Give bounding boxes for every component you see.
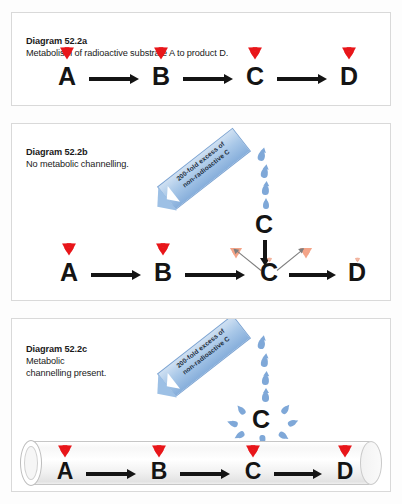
arrow-shaft xyxy=(86,472,128,476)
bulk-c-label-c: C xyxy=(252,407,270,432)
node-a-A: A xyxy=(50,43,84,89)
node-b-B: B xyxy=(146,239,180,285)
trefoil-glyph xyxy=(55,441,75,459)
cylinder-cap-right xyxy=(360,441,382,485)
caption-text-b: No metabolic channelling. xyxy=(26,159,129,169)
radioactive-trefoil-icon xyxy=(335,441,355,463)
radioactive-trefoil-icon xyxy=(153,239,173,261)
droplet-icon xyxy=(260,167,269,178)
bulk-c-label-b: C xyxy=(255,212,273,237)
banner-line-2: non-radioactive C xyxy=(167,137,245,200)
trefoil-glyph xyxy=(243,441,263,459)
node-c-C: C xyxy=(236,441,270,483)
trefoil-glyph xyxy=(339,43,359,61)
trefoil-glyph xyxy=(149,441,169,459)
droplet-icon xyxy=(278,430,288,439)
arrow-shaft xyxy=(89,77,131,81)
droplet-icon xyxy=(257,150,266,161)
figure-canvas: Diagram 52.2a Metabolism of radioactive … xyxy=(0,0,402,504)
droplet-icon xyxy=(229,420,238,428)
caption-text-c: Metabolic channelling present. xyxy=(26,356,106,378)
radioactive-trefoil-icon xyxy=(151,43,171,65)
arrow-shaft xyxy=(180,472,222,476)
cylinder-opening-inner xyxy=(24,446,38,480)
radioactive-trefoil-icon-tiny xyxy=(265,250,274,268)
trefoil-glyph xyxy=(59,239,79,257)
caption-panel-c: Diagram 52.2c Metabolic channelling pres… xyxy=(26,331,176,379)
arrow-head xyxy=(236,270,245,280)
droplet-icon xyxy=(262,375,270,385)
node-label: C xyxy=(236,460,270,483)
panel-diagram-52-2b: Diagram 52.2b No metabolic channelling. … xyxy=(11,123,391,301)
arrow-shaft xyxy=(274,472,314,476)
arrow-head xyxy=(318,74,327,84)
panel-diagram-52-2a: Diagram 52.2a Metabolism of radioactive … xyxy=(11,12,391,106)
banner-body: 200-fold excess of non-radioactive C xyxy=(157,128,251,211)
banner-line-1: 200-fold excess of xyxy=(162,130,240,193)
node-label: B xyxy=(144,64,178,89)
banner-line-2: non-radioactive C xyxy=(167,324,245,387)
arrow-c-d xyxy=(289,271,336,278)
radioactive-trefoil-icon xyxy=(59,239,79,261)
droplet-icon xyxy=(287,419,297,427)
arrow-b-c xyxy=(180,470,230,477)
trefoil-glyph xyxy=(57,43,77,61)
caption-label-c: Diagram 52.2c xyxy=(26,344,87,354)
node-c-D: D xyxy=(328,441,362,483)
arrow-head xyxy=(327,270,336,280)
droplet-icon xyxy=(280,405,289,415)
node-c-B: B xyxy=(142,441,176,483)
droplet-icon xyxy=(237,406,246,416)
radioactive-trefoil-icon xyxy=(243,441,263,463)
arrow-head xyxy=(221,469,230,479)
arrow-b-c xyxy=(185,271,245,278)
trefoil-glyph xyxy=(335,441,355,459)
arrow-shaft xyxy=(91,273,133,277)
droplet-icon xyxy=(262,392,269,402)
arrow-a-b xyxy=(86,470,136,477)
droplet-icon xyxy=(257,338,266,349)
arrow-shaft xyxy=(183,77,225,81)
radioactive-trefoil-icon xyxy=(55,441,75,463)
node-a-C: C xyxy=(238,43,272,89)
trefoil-glyph xyxy=(245,43,265,61)
arrow-shaft xyxy=(185,273,237,277)
arrow-c-d xyxy=(274,470,322,477)
node-b-D: D xyxy=(340,250,374,285)
caption-label-b: Diagram 52.2b xyxy=(26,147,88,157)
droplet-icon xyxy=(260,357,268,368)
droplet-icon xyxy=(236,431,246,440)
node-b-A: A xyxy=(52,239,86,285)
node-label: A xyxy=(48,460,82,483)
node-label: D xyxy=(332,64,366,89)
trefoil-glyph xyxy=(151,43,171,61)
droplet-icon xyxy=(262,185,270,195)
node-b-C: C xyxy=(252,250,286,285)
trefoil-glyph-tiny xyxy=(353,255,362,264)
banner-text: 200-fold excess of non-radioactive C xyxy=(162,130,245,200)
arrow-head xyxy=(224,74,233,84)
arrow-head xyxy=(132,270,141,280)
panel-diagram-52-2c: Diagram 52.2c Metabolic channelling pres… xyxy=(11,318,391,492)
radioactive-trefoil-icon xyxy=(149,441,169,463)
node-label: D xyxy=(328,460,362,483)
arrow-head xyxy=(313,469,322,479)
arrow-head xyxy=(127,469,136,479)
banner-excess-c-b: 200-fold excess of non-radioactive C xyxy=(157,128,251,211)
node-label: C xyxy=(238,64,272,89)
trefoil-glyph-tiny xyxy=(265,255,274,264)
arrow-shaft xyxy=(289,273,328,277)
radioactive-trefoil-icon xyxy=(245,43,265,65)
radioactive-trefoil-icon xyxy=(339,43,359,65)
node-label: A xyxy=(52,260,86,285)
node-a-D: D xyxy=(332,43,366,89)
node-label: A xyxy=(50,64,84,89)
arrow-shaft xyxy=(277,77,319,81)
node-label: B xyxy=(146,260,180,285)
arrow-a-b xyxy=(89,75,139,82)
arrow-head xyxy=(130,74,139,84)
arrow-b-c xyxy=(183,75,233,82)
node-label: B xyxy=(142,460,176,483)
droplet-icon xyxy=(263,201,269,209)
arrow-c-d xyxy=(277,75,327,82)
